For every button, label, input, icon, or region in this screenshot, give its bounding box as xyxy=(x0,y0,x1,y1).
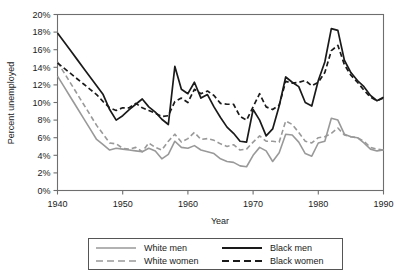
y-tick-label: 8% xyxy=(37,115,50,125)
y-tick-label: 0% xyxy=(37,186,50,196)
y-axis-ticks: 0%2%4%6%8%10%12%14%16%18%20% xyxy=(32,10,57,196)
x-tick-label: 1940 xyxy=(47,199,67,209)
y-axis-title: Percent unemployed xyxy=(6,62,16,145)
y-tick-label: 14% xyxy=(32,63,50,73)
y-tick-label: 12% xyxy=(32,80,50,90)
legend-label-black-men: Black men xyxy=(270,243,312,253)
legend-label-white-women: White women xyxy=(144,256,199,266)
y-tick-label: 6% xyxy=(37,133,50,143)
series-line-white-men xyxy=(58,76,384,167)
data-series-group xyxy=(58,29,384,167)
x-tick-label: 1970 xyxy=(243,199,263,209)
x-tick-label: 1950 xyxy=(113,199,133,209)
y-tick-label: 2% xyxy=(37,168,50,178)
y-tick-label: 20% xyxy=(32,10,50,20)
x-tick-label: 1960 xyxy=(178,199,198,209)
x-axis-title: Year xyxy=(211,216,229,226)
y-tick-label: 16% xyxy=(32,45,50,55)
x-axis-ticks: 194019501960197019801990 xyxy=(47,191,393,209)
y-tick-label: 18% xyxy=(32,27,50,37)
x-tick-label: 1990 xyxy=(373,199,393,209)
legend-label-white-men: White men xyxy=(144,243,187,253)
legend-label-black-women: Black women xyxy=(270,256,324,266)
y-tick-label: 4% xyxy=(37,151,50,161)
legend: White menWhite womenBlack menBlack women xyxy=(89,239,343,270)
series-line-black-women xyxy=(58,45,384,120)
x-tick-label: 1980 xyxy=(308,199,328,209)
chart-canvas: 0%2%4%6%8%10%12%14%16%18%20% 19401950196… xyxy=(0,0,398,275)
series-line-black-men xyxy=(58,29,384,143)
y-tick-label: 10% xyxy=(32,98,50,108)
series-line-white-women xyxy=(58,62,384,152)
legend-items: White menWhite womenBlack menBlack women xyxy=(96,243,324,266)
unemployment-chart-figure: 0%2%4%6%8%10%12%14%16%18%20% 19401950196… xyxy=(0,0,398,275)
